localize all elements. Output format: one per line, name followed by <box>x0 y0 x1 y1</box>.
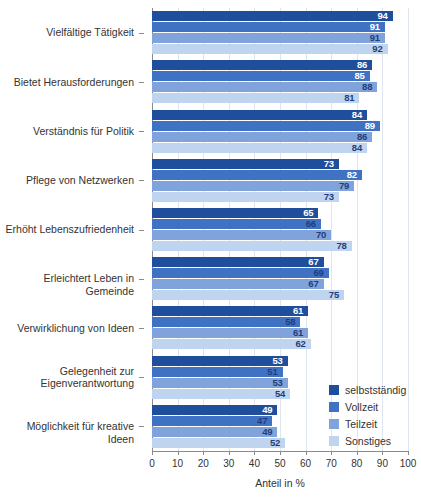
bar <box>152 44 388 54</box>
x-axis-title: Anteil in % <box>152 477 408 489</box>
bar-value-label: 51 <box>267 366 277 377</box>
bar <box>152 192 339 202</box>
bar-row: 61 <box>152 306 408 316</box>
category-label: Erleichtert Leben in Gemeinde <box>0 272 134 297</box>
category-label: Verwirklichung von Ideen <box>17 322 134 335</box>
legend-label: Vollzeit <box>345 401 378 413</box>
category-axis-labels: Vielfältige TätigkeitBietet Herausforder… <box>0 8 144 451</box>
bar-value-label: 47 <box>257 415 267 426</box>
legend-label: Sonstiges <box>345 435 391 447</box>
legend-item[interactable]: Sonstiges <box>329 433 421 448</box>
bar-row: 62 <box>152 339 408 349</box>
bar-value-label: 92 <box>372 43 382 54</box>
bar <box>152 317 300 327</box>
bar <box>152 60 372 70</box>
bar-value-label: 67 <box>308 256 318 267</box>
x-axis-tick <box>178 451 179 455</box>
bar-row: 86 <box>152 60 408 70</box>
x-axis-tick-label: 70 <box>326 458 337 469</box>
bar <box>152 378 288 388</box>
legend-label: Teilzeit <box>345 418 377 430</box>
bar <box>152 11 393 21</box>
bar-row: 84 <box>152 110 408 120</box>
bar-group: 67696775 <box>152 257 408 300</box>
bar-group: 84898684 <box>152 110 408 153</box>
x-axis-tick <box>203 451 204 455</box>
bar-value-label: 81 <box>344 92 354 103</box>
bar <box>152 170 362 180</box>
category-tick <box>139 180 144 181</box>
x-axis-tick <box>306 451 307 455</box>
bar <box>152 268 329 278</box>
bar <box>152 208 318 218</box>
x-axis-tick <box>331 451 332 455</box>
bar-row: 61 <box>152 328 408 338</box>
bar-value-label: 62 <box>296 338 306 349</box>
bar-row: 67 <box>152 257 408 267</box>
category-tick <box>139 230 144 231</box>
bar <box>152 367 283 377</box>
bar-row: 91 <box>152 33 408 43</box>
bar <box>152 219 321 229</box>
bar-row: 89 <box>152 121 408 131</box>
bar-value-label: 49 <box>262 426 272 437</box>
bar-value-label: 73 <box>324 158 334 169</box>
bar <box>152 306 308 316</box>
bar <box>152 121 380 131</box>
legend-item[interactable]: selbstständig <box>329 382 421 397</box>
bar <box>152 132 372 142</box>
bar-value-label: 88 <box>362 81 372 92</box>
bar-value-label: 61 <box>293 327 303 338</box>
bar <box>152 143 367 153</box>
category-label: Gelegenheit zur Eigenverantwortung <box>41 365 134 390</box>
category-label: Möglichkeit für kreative Ideen <box>0 420 134 445</box>
legend-item[interactable]: Vollzeit <box>329 399 421 414</box>
bar-value-label: 86 <box>357 59 367 70</box>
bar <box>152 356 288 366</box>
bar <box>152 110 367 120</box>
bar-row: 53 <box>152 356 408 366</box>
legend-swatch-icon <box>329 402 339 412</box>
legend-item[interactable]: Teilzeit <box>329 416 421 431</box>
bar <box>152 416 272 426</box>
bar <box>152 438 285 448</box>
bar-row: 51 <box>152 367 408 377</box>
legend-swatch-icon <box>329 385 339 395</box>
x-axis-tick-label: 30 <box>223 458 234 469</box>
bar-group: 73827973 <box>152 159 408 202</box>
bar-row: 65 <box>152 208 408 218</box>
x-axis-tick-label: 60 <box>300 458 311 469</box>
bar <box>152 339 311 349</box>
bar-value-label: 89 <box>365 120 375 131</box>
category-tick <box>139 131 144 132</box>
category-tick <box>139 377 144 378</box>
category-label: Verständnis für Politik <box>33 125 134 138</box>
bar-value-label: 49 <box>262 404 272 415</box>
bar-value-label: 52 <box>270 437 280 448</box>
bar-value-label: 53 <box>272 377 282 388</box>
x-axis-tick-label: 0 <box>149 458 155 469</box>
bar-value-label: 75 <box>329 289 339 300</box>
x-axis-tick <box>357 451 358 455</box>
x-axis-tick-label: 90 <box>377 458 388 469</box>
bar <box>152 82 377 92</box>
bar-row: 67 <box>152 279 408 289</box>
bar <box>152 328 308 338</box>
bar-row: 73 <box>152 192 408 202</box>
bar-row: 94 <box>152 11 408 21</box>
bar-row: 66 <box>152 219 408 229</box>
bar-value-label: 73 <box>324 191 334 202</box>
bar-value-label: 66 <box>306 218 316 229</box>
bar <box>152 33 385 43</box>
x-axis-tick <box>152 451 153 455</box>
bar-group: 86858881 <box>152 60 408 103</box>
bar-value-label: 58 <box>285 316 295 327</box>
category-tick <box>139 426 144 427</box>
category-tick <box>139 279 144 280</box>
bar-value-label: 84 <box>352 142 362 153</box>
bar-row: 92 <box>152 44 408 54</box>
bar-row: 58 <box>152 317 408 327</box>
category-label: Pflege von Netzwerken <box>26 174 134 187</box>
bar <box>152 290 344 300</box>
bar-row: 75 <box>152 290 408 300</box>
